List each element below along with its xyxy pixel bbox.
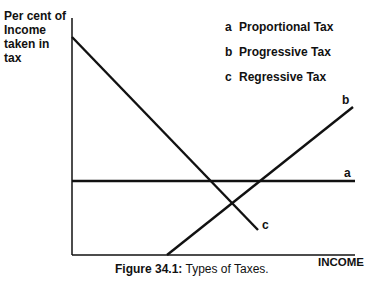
tax-diagram <box>0 0 372 284</box>
line-label-a: a <box>344 166 351 180</box>
line-label-b: b <box>342 93 349 107</box>
line-label-c: c <box>262 218 269 232</box>
figure-caption: Figure 34.1: Types of Taxes. <box>115 262 269 276</box>
line-c-regressive <box>72 37 258 230</box>
x-axis-label: INCOME <box>318 256 364 268</box>
